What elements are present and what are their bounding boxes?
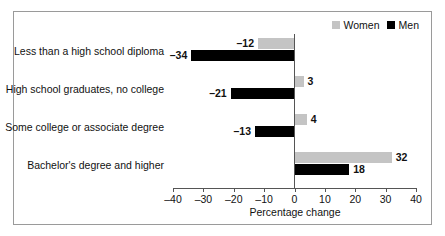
- bar-value-label: 32: [396, 152, 408, 163]
- x-axis-tick: [325, 188, 326, 192]
- chart-frame: Women Men Less than a high school diplom…: [13, 11, 432, 225]
- bar-men: [255, 126, 294, 137]
- bar-value-label: 18: [353, 164, 365, 175]
- bar-women: [258, 38, 294, 49]
- category-label: Less than a high school diploma: [0, 46, 164, 57]
- bar-women: [295, 114, 307, 125]
- x-axis-tick: [234, 188, 235, 192]
- bar-value-label: 3: [308, 76, 314, 87]
- x-axis-tick: [355, 188, 356, 192]
- bar-value-label: 4: [311, 114, 317, 125]
- bar-men: [295, 164, 350, 175]
- x-axis-tick: [295, 188, 296, 192]
- plot-area: Less than a high school diploma –12 –34 …: [14, 12, 433, 226]
- bar-value-label: –21: [187, 88, 227, 99]
- bar-value-label: –13: [211, 126, 251, 137]
- x-axis-tick: [386, 188, 387, 192]
- bar-men: [191, 50, 294, 61]
- zero-axis-line: [294, 34, 295, 188]
- bar-men: [231, 88, 295, 99]
- category-label: High school graduates, no college: [0, 84, 164, 95]
- chart-figure: Women Men Less than a high school diplom…: [0, 0, 445, 236]
- category-label: Bachelor's degree and higher: [0, 160, 164, 171]
- bar-value-label: –12: [214, 38, 254, 49]
- bar-women: [295, 152, 392, 163]
- category-label: Some college or associate degree: [0, 122, 164, 133]
- x-axis-tick: [173, 188, 174, 192]
- x-axis-tick: [203, 188, 204, 192]
- x-axis-tick: [264, 188, 265, 192]
- x-axis-tick-label: 40: [396, 193, 436, 205]
- bar-value-label: –34: [147, 50, 187, 61]
- x-axis-tick: [416, 188, 417, 192]
- bar-women: [295, 76, 304, 87]
- x-axis-title: Percentage change: [173, 206, 417, 218]
